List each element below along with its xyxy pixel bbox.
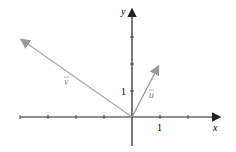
vector-u bbox=[132, 67, 158, 117]
y-tick-label-1: 1 bbox=[121, 86, 126, 97]
vector-v-label: v bbox=[64, 76, 69, 87]
x-axis-label: x bbox=[212, 122, 218, 133]
y-axis-label: y bbox=[120, 6, 126, 17]
svg-text:u: u bbox=[149, 89, 154, 100]
x-axis bbox=[20, 115, 219, 119]
vector-v bbox=[22, 40, 132, 117]
vector-u-label: u bbox=[149, 89, 154, 100]
x-tick-label-1: 1 bbox=[157, 122, 162, 133]
y-axis bbox=[130, 10, 134, 146]
vector-diagram: y x 1 1 v u bbox=[0, 0, 236, 152]
svg-text:v: v bbox=[64, 76, 69, 87]
